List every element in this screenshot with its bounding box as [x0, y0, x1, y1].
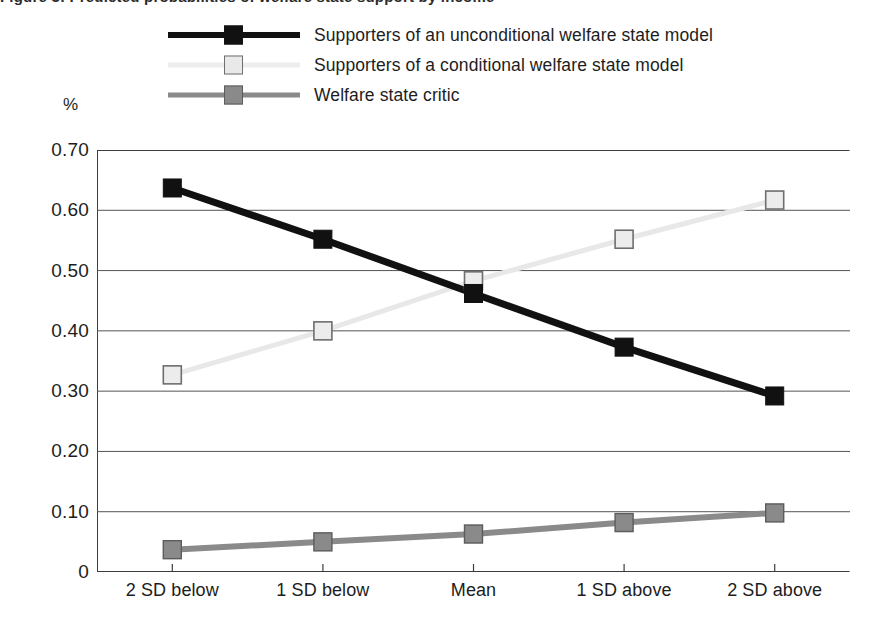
plot-svg [97, 150, 850, 572]
y-axis-tick-label: 0.10 [3, 501, 89, 523]
x-axis-tick-label: 2 SD below [126, 580, 219, 601]
legend-label-conditional: Supporters of a conditional welfare stat… [300, 55, 684, 76]
data-point-marker [615, 338, 633, 356]
y-axis-tick-label: 0.60 [3, 199, 89, 221]
data-point-marker [615, 514, 633, 532]
legend-label-unconditional: Supporters of an unconditional welfare s… [300, 25, 713, 46]
y-axis-tick-label: 0.20 [3, 440, 89, 462]
y-axis-tick-label: 0 [3, 561, 89, 583]
x-axis-tick-labels: 2 SD below1 SD belowMean1 SD above2 SD a… [97, 580, 850, 610]
data-point-marker [766, 504, 784, 522]
data-point-marker [314, 322, 332, 340]
figure-title-cutoff: Figure 3: Predicted probabilities of wel… [0, 0, 881, 6]
y-axis-tick-label: 0.30 [3, 380, 89, 402]
x-axis-tick-label: 1 SD above [577, 580, 672, 601]
percent-axis-caption: % [63, 95, 78, 115]
legend-marker-unconditional [224, 26, 243, 45]
y-axis-tick-label: 0.40 [3, 320, 89, 342]
legend-key-critic [168, 82, 300, 108]
y-axis-tick-label: 0.50 [3, 260, 89, 282]
legend-item-conditional: Supporters of a conditional welfare stat… [168, 50, 828, 80]
data-point-marker [465, 525, 483, 543]
legend-label-critic: Welfare state critic [300, 85, 460, 106]
x-axis-tick-label: Mean [451, 580, 496, 601]
legend-item-unconditional: Supporters of an unconditional welfare s… [168, 20, 828, 50]
figure-title-text: Figure 3: Predicted probabilities of wel… [0, 0, 495, 5]
chart-legend: Supporters of an unconditional welfare s… [168, 20, 828, 110]
legend-item-critic: Welfare state critic [168, 80, 828, 110]
legend-key-conditional [168, 52, 300, 78]
data-point-marker [163, 541, 181, 559]
y-axis-tick-label: 0.70 [3, 139, 89, 161]
x-axis-tick-label: 2 SD above [727, 580, 822, 601]
legend-marker-conditional [224, 56, 243, 75]
data-point-marker [766, 387, 784, 405]
plot-area [97, 150, 850, 572]
legend-key-unconditional [168, 22, 300, 48]
data-point-marker [615, 230, 633, 248]
data-point-marker [314, 230, 332, 248]
chart-figure: Figure 3: Predicted probabilities of wel… [0, 0, 881, 641]
data-point-marker [163, 366, 181, 384]
data-point-marker [766, 191, 784, 209]
data-point-marker [163, 179, 181, 197]
y-axis-tick-labels: 00.100.200.300.400.500.600.70 [0, 150, 89, 572]
x-axis-tick-label: 1 SD below [276, 580, 369, 601]
data-point-marker [314, 533, 332, 551]
legend-marker-critic [224, 86, 243, 105]
data-point-marker [465, 284, 483, 302]
